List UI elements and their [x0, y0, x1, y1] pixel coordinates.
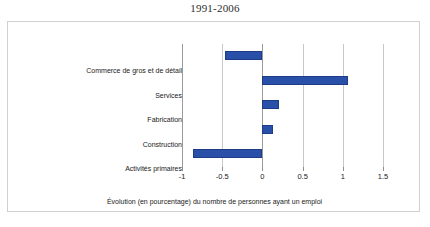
x-tick-label: -1: [179, 172, 186, 181]
category-label-commerce: Commerce de gros et de détail: [22, 66, 182, 75]
bar-construction[interactable]: [262, 125, 273, 134]
tick-mark: [303, 167, 304, 171]
x-axis: -1 -0.5 0 0.5 1 1.5: [182, 167, 383, 189]
tick-mark: [182, 167, 183, 171]
tick-mark: [343, 167, 344, 171]
bar-row: [182, 118, 383, 143]
bar-row: [182, 142, 383, 167]
plot-area: [182, 44, 383, 167]
bar-services[interactable]: [262, 76, 347, 85]
gridline-1.5: [383, 44, 384, 167]
tick-mark: [383, 167, 384, 171]
bar-activites-primaires[interactable]: [193, 149, 263, 158]
x-tick-label: 0: [260, 172, 264, 181]
category-label-services: Services: [22, 91, 182, 100]
x-tick-label: 1.5: [378, 172, 388, 181]
tick-mark: [262, 167, 263, 171]
category-label-construction: Construction: [22, 140, 182, 149]
x-tick-label: 0.5: [297, 172, 307, 181]
bar-row: [182, 93, 383, 118]
chart-title: 1991-2006: [0, 2, 430, 14]
tick-mark: [222, 167, 223, 171]
bar-fabrication[interactable]: [262, 100, 279, 109]
bar-row: [182, 44, 383, 69]
category-label-activites-primaires: Activités primaires: [22, 164, 182, 173]
bar-row: [182, 69, 383, 94]
x-tick-label: -0.5: [216, 172, 229, 181]
chart-frame: Commerce de gros et de détail Services F…: [7, 21, 420, 212]
category-label-fabrication: Fabrication: [22, 115, 182, 124]
category-axis-labels: Commerce de gros et de détail Services F…: [18, 66, 182, 189]
x-axis-title: Évolution (en pourcentage) du nombre de …: [8, 198, 421, 205]
x-tick-label: 1: [341, 172, 345, 181]
bar-commerce[interactable]: [225, 51, 263, 60]
